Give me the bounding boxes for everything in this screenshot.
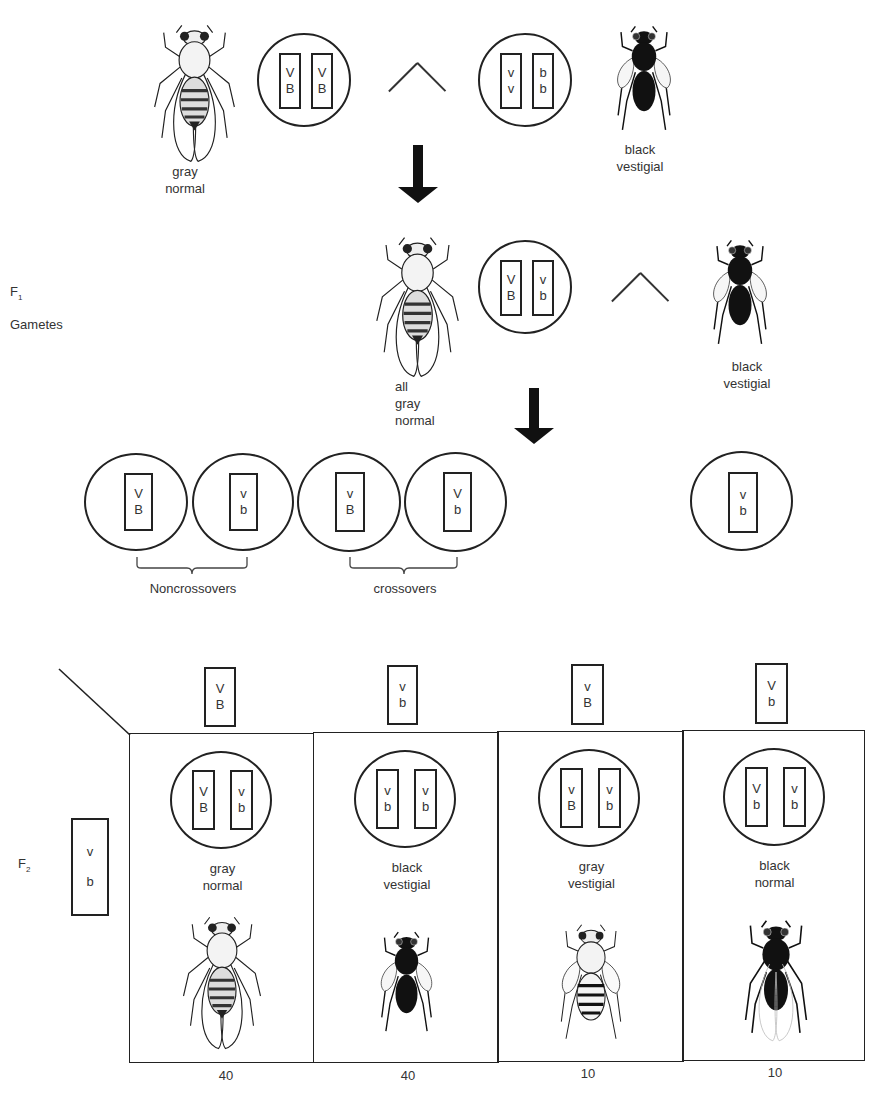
f1-right-phenotype: black vestigial (712, 358, 782, 392)
phenotype-line: normal (395, 413, 435, 428)
phenotype-line: black (732, 359, 762, 374)
allele: b (384, 799, 391, 815)
f1-phenotype: all gray normal (395, 378, 435, 429)
allele: v (422, 783, 429, 799)
chromosome: V B (192, 770, 215, 830)
punnett-cell-black-vestigial: v b v b black vestigial (313, 732, 499, 1063)
column-gamete-chromosome: V b (755, 663, 788, 724)
allele: b (240, 502, 247, 518)
cell-phenotype: black normal (683, 857, 866, 891)
chromosome: v b (783, 767, 806, 827)
parent-right-genotype-circle: v v b b (478, 33, 572, 127)
fly-gray-vestigial-icon (541, 920, 641, 1045)
allele: b (606, 798, 613, 814)
allele: b (238, 800, 245, 816)
generation-subscript: 1 (18, 293, 22, 302)
down-arrow-icon (514, 388, 554, 446)
cell-phenotype: gray vestigial (498, 858, 685, 892)
gametes-label: Gametes (10, 316, 63, 333)
generation-letter: F (18, 856, 26, 871)
generation-subscript: 2 (26, 865, 30, 874)
phenotype-line: vestigial (384, 877, 431, 892)
count-gray-vestigial: 10 (558, 1066, 618, 1081)
cell-phenotype: gray normal (130, 860, 315, 894)
allele: b (791, 797, 798, 813)
allele: v (384, 783, 391, 799)
generation-letter: F (10, 284, 18, 299)
allele: B (583, 695, 592, 711)
allele: v (347, 486, 354, 502)
allele: B (199, 800, 208, 816)
parent-right-phenotype: black vestigial (605, 141, 675, 175)
allele: v (584, 679, 591, 695)
gamete-circle: v b (690, 451, 793, 551)
allele: v (240, 486, 247, 502)
column-gamete-chromosome: v b (387, 665, 418, 725)
punnett-cell-black-normal: V b v b black normal (682, 730, 865, 1061)
gamete-circle: v b (192, 453, 294, 551)
allele: V (134, 486, 143, 502)
phenotype-line: normal (165, 181, 205, 196)
chromosome: V b (745, 767, 768, 827)
phenotype-line: gray (579, 859, 604, 874)
allele: b (739, 503, 746, 519)
allele: B (346, 502, 355, 518)
allele: B (286, 81, 295, 97)
allele: v (540, 272, 547, 288)
allele: V (767, 678, 776, 694)
allele: v (238, 784, 245, 800)
allele: v (399, 679, 406, 695)
allele: v (568, 782, 575, 798)
chromosome: v b (598, 768, 621, 828)
chromosome: v b (728, 472, 758, 533)
column-gamete-chromosome: V B (204, 667, 236, 727)
chromosome: v b (532, 260, 554, 316)
phenotype-line: black (759, 858, 789, 873)
allele: b (539, 288, 546, 304)
f2-generation-label: F2 (18, 855, 30, 878)
allele: V (453, 486, 462, 502)
allele: V (286, 65, 295, 81)
allele: b (539, 65, 546, 81)
phenotype-line: gray (210, 861, 235, 876)
phenotype-line: vestigial (617, 159, 664, 174)
allele: b (539, 81, 546, 97)
noncrossovers-brace-icon (135, 555, 250, 577)
allele: b (768, 694, 775, 710)
phenotype-line: normal (203, 878, 243, 893)
allele: B (216, 697, 225, 713)
count-gray-normal: 40 (196, 1068, 256, 1083)
chromosome: v B (335, 472, 365, 532)
punnett-corner-diagonal (55, 665, 135, 740)
chromosome: b b (532, 53, 554, 109)
fly-black-vestigial-icon (359, 928, 454, 1038)
genotype-circle: v b v b (354, 750, 456, 848)
genotype-circle: V B v b (170, 751, 272, 849)
f1-generation-label: F1 (10, 283, 22, 306)
allele: b (86, 874, 93, 890)
genotype-circle: V b v b (723, 748, 825, 846)
punnett-cell-gray-vestigial: v B v b gray vestigial (497, 731, 684, 1062)
allele: v (740, 487, 747, 503)
allele: b (753, 797, 760, 813)
cross-icon (625, 277, 655, 307)
chromosome: V b (443, 472, 472, 532)
parent-left-genotype-circle: V B V B (257, 33, 351, 127)
chromosome: V B (124, 473, 153, 531)
allele: b (422, 799, 429, 815)
crossovers-brace-icon (348, 555, 460, 577)
allele: v (508, 65, 515, 81)
chromosome: V B (311, 53, 333, 109)
phenotype-line: gray (172, 164, 197, 179)
allele: B (134, 502, 143, 518)
noncrossovers-label: Noncrossovers (128, 580, 258, 597)
phenotype-line: vestigial (568, 876, 615, 891)
gamete-circle: v B (297, 452, 401, 552)
phenotype-line: black (625, 142, 655, 157)
chromosome: v b (229, 473, 258, 531)
chromosome: V B (500, 260, 522, 316)
punnett-cell-gray-normal: V B v b gray normal (129, 733, 314, 1063)
allele: b (399, 695, 406, 711)
phenotype-line: vestigial (724, 376, 771, 391)
fly-gray-normal-icon (365, 232, 470, 380)
